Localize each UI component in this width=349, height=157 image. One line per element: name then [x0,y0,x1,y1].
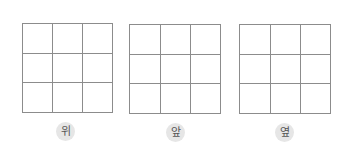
side-view-label: 옆 [275,123,294,142]
grid-line [240,54,330,55]
grid-line [82,24,83,112]
top-view-label: 위 [56,122,75,141]
front-view-grid [129,24,221,114]
grid-line [130,54,220,55]
top-view-grid [22,23,113,113]
grid-line [160,25,161,113]
grid-line [130,83,220,84]
grid-line [190,25,191,113]
grid-line [23,82,112,83]
grid-line [52,24,53,112]
grid-line [270,25,271,113]
side-view-grid [239,24,331,114]
grid-line [240,83,330,84]
grid-line [300,25,301,113]
grid-line [23,53,112,54]
front-view-label: 앞 [166,123,185,142]
